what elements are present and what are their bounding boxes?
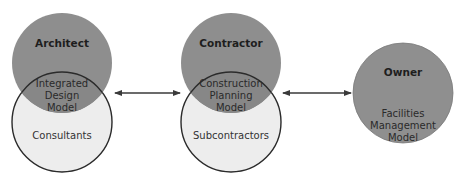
overlap-line-2: Planning: [209, 90, 252, 101]
owner-body-line-1: Facilities: [382, 108, 425, 119]
overlap-line-2: Design: [45, 90, 80, 101]
owner-group: Owner Facilities Management Model: [353, 43, 453, 143]
owner-body-line-2: Management: [370, 120, 436, 131]
contractor-group: Contractor Construction Planning Model S…: [181, 13, 281, 172]
overlap-line-3: Model: [216, 102, 246, 113]
architect-label: Architect: [35, 37, 89, 49]
contractor-label: Contractor: [199, 37, 263, 49]
architect-group: Architect Integrated Design Model Consul…: [12, 13, 112, 172]
overlap-line-1: Construction: [199, 78, 263, 89]
bim-collaboration-diagram: Architect Integrated Design Model Consul…: [0, 0, 463, 182]
owner-body-line-3: Model: [388, 132, 418, 143]
consultants-label: Consultants: [32, 130, 91, 141]
overlap-line-3: Model: [47, 102, 77, 113]
owner-label: Owner: [384, 66, 423, 78]
overlap-line-1: Integrated: [36, 78, 88, 89]
subcontractors-label: Subcontractors: [193, 130, 269, 141]
